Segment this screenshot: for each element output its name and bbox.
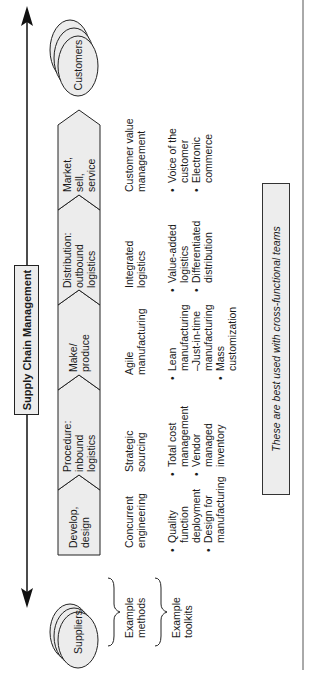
method-procedure: Strategicsourcing (123, 431, 147, 472)
toolkit-item: Masscustomization (214, 304, 238, 380)
toolkit-item: Electroniccommerce (190, 128, 214, 192)
toolkit-item: Total costmanagement (166, 406, 190, 476)
customers-label: Customers (72, 34, 84, 96)
toolkit-make: Leanmanufacturing–Just-in-timemanufactur… (166, 304, 238, 380)
cross-functional-note-box: These are best used with cross-functiona… (262, 183, 290, 495)
toolkit-distribution: Value-addedlogistics Differentiateddistr… (166, 221, 214, 292)
toolkit-develop: Qualityfunctiondeployment Design formanu… (166, 476, 226, 552)
example-toolkits-label: Exampletoolkits (170, 578, 194, 638)
example-methods-label: Examplemethods (123, 578, 147, 638)
toolkit-market: Voice of thecustomer Electroniccommerce (166, 128, 214, 192)
step-market-label: Market,sell,service (61, 127, 97, 192)
toolkit-item: Vendormanagedinventory (190, 406, 226, 476)
step-distribution-label: Distribution:outboundlogistics (61, 210, 97, 288)
method-distribution: Integratedlogistics (123, 241, 147, 288)
step-make-label: Make/produce (67, 307, 91, 372)
toolkit-item: Value-addedlogistics (166, 221, 190, 292)
toolkits-brace (155, 578, 167, 646)
method-develop: Concurrentengineering (123, 493, 147, 548)
supply-chain-diagram: Supply Chain Management Suppliers (0, 0, 310, 678)
toolkit-procedure: Total costmanagement Vendormanagedinvent… (166, 406, 226, 476)
toolkit-item: Qualityfunctiondeployment (166, 476, 202, 552)
toolkit-item: Voice of thecustomer (166, 128, 190, 192)
suppliers-label: Suppliers (72, 600, 84, 664)
methods-brace (108, 578, 120, 646)
cross-functional-note: These are best used with cross-functiona… (270, 226, 282, 451)
toolkit-item: Design formanufacturing (202, 476, 226, 552)
step-procedure-label: Procedure:inboundlogistics (61, 392, 97, 472)
method-market: Customer valuemanagement (123, 118, 147, 192)
toolkit-item: Leanmanufacturing–Just-in-timemanufactur… (166, 304, 214, 380)
method-make: Agilemanufacturing (123, 308, 147, 375)
step-develop-label: Develop,design (67, 488, 91, 548)
toolkit-item: Differentiateddistribution (190, 221, 214, 292)
